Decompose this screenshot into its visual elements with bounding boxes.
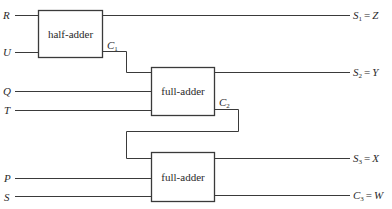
- half-adder-label: half-adder: [38, 28, 103, 40]
- wire-C2: [127, 110, 239, 159]
- input-label-R: R: [3, 9, 10, 21]
- input-label-Q: Q: [3, 85, 11, 97]
- output-label-S1: S1=Z: [353, 9, 378, 25]
- full-adder-2-label: full-adder: [151, 171, 215, 183]
- carry-label-C1: C1: [107, 39, 118, 55]
- adder-circuit-diagram: R U Q T P S half-adder full-adder full-a…: [0, 0, 392, 209]
- output-label-S3: S3=X: [353, 152, 379, 168]
- output-label-C3: C3=W: [353, 189, 383, 205]
- input-label-U: U: [3, 46, 11, 58]
- input-label-S: S: [4, 191, 10, 203]
- full-adder-1-label: full-adder: [151, 85, 215, 97]
- input-label-P: P: [4, 172, 11, 184]
- carry-label-C2: C2: [219, 96, 230, 112]
- output-label-S2: S2=Y: [353, 66, 378, 82]
- input-label-T: T: [4, 104, 10, 116]
